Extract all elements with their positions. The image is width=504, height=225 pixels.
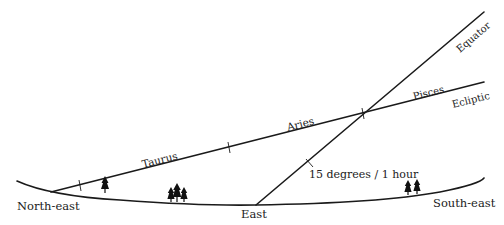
tree-group-icon (167, 183, 187, 202)
east-label: East (241, 207, 267, 221)
rotation-rate-annotation: 15 degrees / 1 hour (309, 168, 419, 181)
south-east-label: South-east (433, 196, 496, 210)
aries-label: Aries (285, 115, 316, 134)
taurus-label: Taurus (141, 149, 179, 170)
celestial-diagram: North-east East South-east Taurus Aries … (0, 0, 504, 225)
ecliptic-label: Ecliptic (451, 90, 491, 110)
pisces-label: Pisces (412, 83, 445, 101)
tree-pair-icon (404, 179, 420, 195)
north-east-label: North-east (17, 199, 80, 213)
equator-label: Equator (454, 20, 492, 55)
